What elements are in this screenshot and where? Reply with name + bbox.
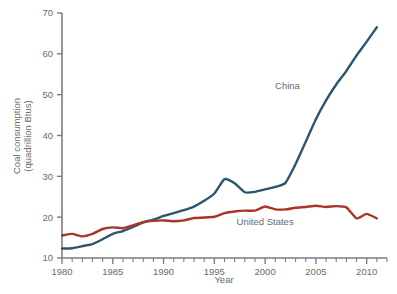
- x-tick-label-1980: 1980: [51, 266, 72, 277]
- y-axis-title-line2: (quadrillion Btus): [22, 100, 33, 171]
- x-axis-title: Year: [214, 274, 233, 285]
- y-tick-label-60: 60: [42, 48, 53, 59]
- series-label-united-states: United States: [237, 216, 294, 227]
- y-tick-label-40: 40: [42, 130, 53, 141]
- chart-background: [0, 0, 397, 294]
- y-tick-label-20: 20: [42, 212, 53, 223]
- series-label-china: China: [275, 80, 301, 91]
- y-axis-title: Coal consumption (quadrillion Btus): [11, 98, 33, 174]
- y-tick-label-10: 10: [42, 252, 53, 263]
- x-tick-label-2010: 2010: [356, 266, 377, 277]
- x-tick-label-1990: 1990: [153, 266, 174, 277]
- coal-consumption-line-chart: 10203040506070 1980198519901995200020052…: [0, 0, 397, 294]
- y-axis-title-line1: Coal consumption: [11, 98, 22, 174]
- x-tick-label-2000: 2000: [255, 266, 276, 277]
- chart-canvas: 10203040506070 1980198519901995200020052…: [0, 0, 397, 294]
- x-tick-label-2005: 2005: [305, 266, 326, 277]
- x-tick-label-1985: 1985: [102, 266, 123, 277]
- y-tick-label-30: 30: [42, 171, 53, 182]
- y-tick-label-70: 70: [42, 7, 53, 18]
- y-tick-label-50: 50: [42, 89, 53, 100]
